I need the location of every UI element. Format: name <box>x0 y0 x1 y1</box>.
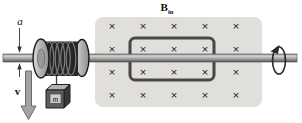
spool-hub <box>38 49 45 68</box>
flux-cross-icon: × <box>201 44 209 54</box>
flux-cross-icon: × <box>170 67 178 77</box>
flux-cross-icon: × <box>201 67 209 77</box>
velocity-label: v <box>15 85 21 97</box>
flux-cross-icon: × <box>108 90 116 100</box>
flux-cross-icon: × <box>232 67 240 77</box>
flux-cross-icon: × <box>108 44 116 54</box>
arrow-up-icon <box>17 63 21 70</box>
arrow-down-icon <box>17 47 21 54</box>
flux-cross-icon: × <box>232 90 240 100</box>
flux-cross-icon: × <box>170 44 178 54</box>
physics-figure: ×××××××××××××××××××× Bin a <box>0 0 302 123</box>
radius-label: a <box>17 15 23 27</box>
field-label: Bin <box>161 1 174 15</box>
flux-cross-icon: × <box>232 21 240 31</box>
flux-cross-icon: × <box>139 21 147 31</box>
field-label-subscript: in <box>168 8 174 15</box>
velocity-arrow-icon <box>21 71 36 120</box>
flux-cross-icon: × <box>232 44 240 54</box>
flux-cross-icon: × <box>170 90 178 100</box>
mass-label: m <box>53 95 59 104</box>
flux-cross-icon: × <box>170 21 178 31</box>
diagram-canvas: ×××××××××××××××××××× Bin a <box>0 0 302 123</box>
flux-cross-icon: × <box>201 90 209 100</box>
flux-cross-icon: × <box>139 90 147 100</box>
flux-cross-icon: × <box>201 21 209 31</box>
flux-cross-icon: × <box>139 67 147 77</box>
flux-cross-icon: × <box>108 21 116 31</box>
spool <box>33 39 89 78</box>
radius-dimension <box>17 28 21 77</box>
flux-cross-icon: × <box>108 67 116 77</box>
flux-cross-icon: × <box>139 44 147 54</box>
